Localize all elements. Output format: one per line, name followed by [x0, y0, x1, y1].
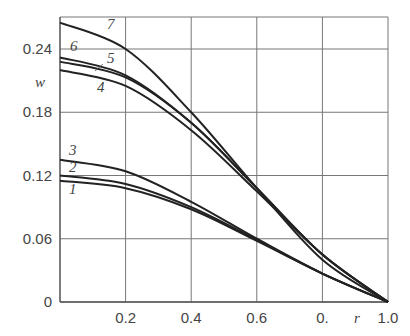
- curve-label-1: 1: [69, 181, 77, 197]
- x-tick-label: 0.6: [246, 309, 267, 326]
- y-tick-label: 0.24: [23, 40, 52, 57]
- x-tick-label: 0.: [316, 309, 329, 326]
- x-tick-label: 1.0: [378, 309, 399, 326]
- curve-label-6: 6: [70, 38, 78, 54]
- curve-6: [60, 57, 388, 302]
- y-tick-label: 0.06: [23, 230, 52, 247]
- curve-1: [60, 181, 388, 302]
- x-tick-label: 0.2: [115, 309, 136, 326]
- curve-label-7: 7: [107, 16, 116, 32]
- curve-label-3: 3: [68, 142, 77, 158]
- x-tick-label: 0.4: [181, 309, 202, 326]
- y-tick-label: 0.12: [23, 167, 52, 184]
- plot-area: 00.060.120.180.240.20.40.60.1.0rw1234567: [0, 0, 410, 336]
- curve-label-2: 2: [69, 159, 77, 175]
- curve-label-5: 5: [107, 50, 115, 66]
- x-axis-label: r: [354, 310, 360, 326]
- y-tick-label: 0.18: [23, 103, 52, 120]
- chart: 00.060.120.180.240.20.40.60.1.0rw1234567: [0, 0, 410, 336]
- y-tick-label: 0: [44, 293, 52, 310]
- y-axis-label: w: [35, 74, 45, 90]
- curve-label-4: 4: [97, 79, 105, 95]
